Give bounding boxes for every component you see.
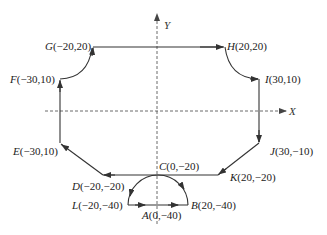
point-label-a: A(0,−40) xyxy=(142,210,182,221)
arc-f-g xyxy=(60,48,92,79)
point-label-f: F(−30,10) xyxy=(10,74,55,85)
point-label-b: B(20,−40) xyxy=(191,200,236,211)
point-label-j: J(30,−10) xyxy=(270,146,313,157)
point-label-c: C(0,−20) xyxy=(159,161,199,172)
point-label-i: I(30,10) xyxy=(265,74,301,85)
x-axis-label: X xyxy=(289,105,296,117)
point-label-e: E(−30,10) xyxy=(13,146,58,157)
point-label-h: H(20,20) xyxy=(227,41,267,52)
point-label-l: L(−20,−40) xyxy=(72,200,123,211)
point-label-d: D(−20,−20) xyxy=(72,181,124,192)
toolpath-diagram xyxy=(0,0,327,235)
point-label-k: K(20,−20) xyxy=(230,172,276,183)
y-axis-label: Y xyxy=(164,19,170,31)
point-label-g: G(−20,20) xyxy=(45,41,91,52)
arc-b-c-l xyxy=(128,175,188,205)
